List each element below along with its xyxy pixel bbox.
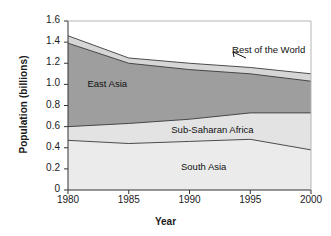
series-label-south-asia: South Asia — [181, 161, 226, 172]
series-label-rest-of-the-world: Rest of the World — [232, 44, 305, 55]
series-label-east-asia: East Asia — [87, 78, 127, 89]
population-area-chart: Population (billions) 00.20.40.60.81.01.… — [0, 0, 331, 236]
plot-area — [0, 0, 331, 236]
series-label-sub-saharan-africa: Sub-Saharan Africa — [171, 124, 253, 135]
x-axis-title: Year — [0, 216, 331, 227]
